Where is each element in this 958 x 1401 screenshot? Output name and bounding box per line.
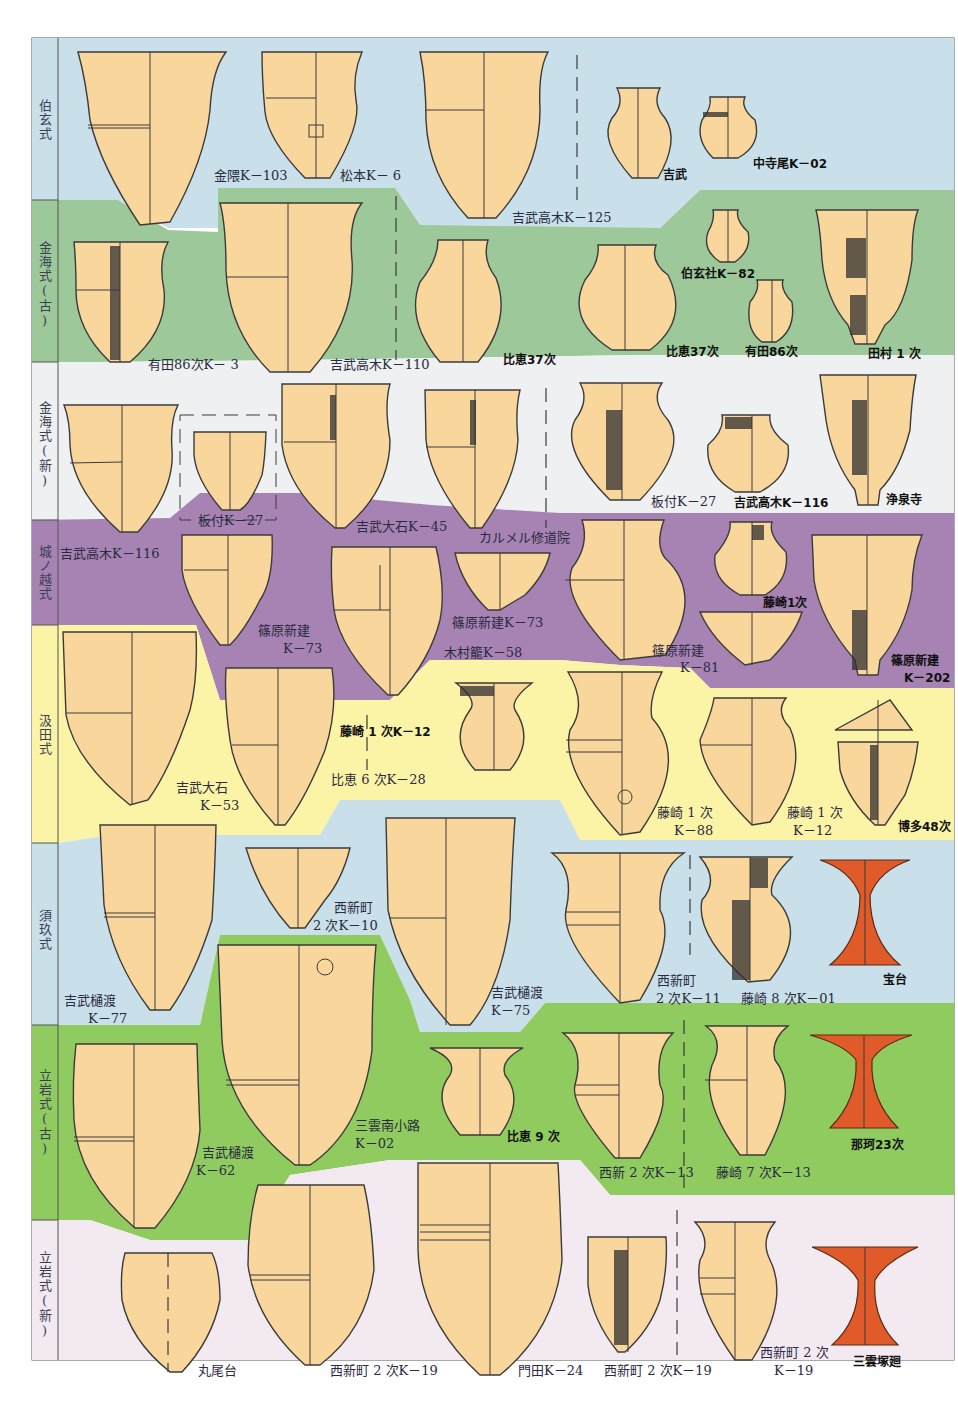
site-label: K－53 [200, 798, 239, 813]
site-label: 木村籠K－58 [444, 645, 522, 660]
site-label: 比恵37次 [666, 345, 719, 360]
phase-label-jonokoshi: 城ノ越式 [33, 535, 55, 610]
site-label: 西新町 2 次K－19 [330, 1363, 438, 1378]
site-label: 西新町 2 次 [760, 1345, 829, 1360]
site-label: 藤崎 1 次 [657, 805, 713, 820]
site-label: K－12 [793, 823, 832, 838]
site-label: 板付K－27 [198, 513, 263, 528]
site-label: K－81 [680, 660, 719, 675]
phase-label-kinkai-old: 金海式(古) [33, 225, 55, 345]
site-label: 比恵 9 次 [507, 1130, 560, 1145]
site-label: 吉武樋渡 [491, 985, 543, 1000]
site-label: 吉武大石K－45 [356, 519, 447, 534]
site-label: 藤崎1次 [763, 596, 807, 611]
site-label: 門田K－24 [518, 1363, 583, 1378]
phase-label-suku: 須玖式 [33, 890, 55, 970]
site-label: K－202 [904, 671, 950, 686]
site-label: 吉武高木K－110 [330, 357, 430, 372]
site-label: 藤崎 7 次K－13 [716, 1165, 811, 1180]
site-label: 篠原新建 [258, 623, 310, 638]
phase-label-kinkai-new: 金海式(新) [33, 395, 55, 495]
site-label: 篠原新建 [652, 643, 704, 658]
site-label: 浄泉寺 [886, 493, 922, 508]
site-label: 有田86次K－ 3 [148, 357, 239, 372]
site-label: 中寺尾K－02 [753, 157, 827, 172]
site-label: 吉武大石 [176, 780, 228, 795]
site-label: 西新町 [334, 900, 373, 915]
site-label: K－73 [283, 641, 322, 656]
site-label: 藤崎 1 次K－12 [340, 725, 431, 740]
site-label: 三雲塚廻 [853, 1355, 901, 1370]
site-label: 2 次K－11 [656, 991, 721, 1006]
site-label: 板付K－27 [651, 494, 716, 509]
site-label: 2 次K－10 [313, 918, 378, 933]
site-label: 西新 2 次K－13 [599, 1165, 694, 1180]
site-label: 篠原新建 [891, 654, 939, 669]
site-label: 丸尾台 [198, 1363, 237, 1378]
site-label: 吉武樋渡 [202, 1145, 254, 1160]
site-label: 西新町 [657, 973, 696, 988]
typology-chart: .pot{fill:#f9d79c;stroke:#3b3b3b;stroke-… [0, 0, 958, 1401]
site-label: 吉武高木K－116 [734, 496, 828, 511]
site-label: 田村 1 次 [868, 347, 921, 362]
site-label: K－77 [88, 1011, 127, 1026]
phase-label-tateiwa-old: 立岩式(古) [33, 1058, 55, 1168]
site-label: 吉武高木K－125 [512, 210, 612, 225]
site-label: K－02 [355, 1136, 394, 1151]
site-label: 吉武高木K－116 [60, 546, 160, 561]
site-label: 宝台 [883, 973, 907, 988]
site-label: 金隈K－103 [214, 168, 288, 183]
site-label: 藤崎 1 次 [787, 805, 843, 820]
site-label: 西新町 2 次K－19 [604, 1363, 712, 1378]
site-label: 比恵 6 次K－28 [331, 772, 426, 787]
site-label: 吉武 [663, 168, 687, 183]
site-label: 藤崎 8 次K－01 [741, 991, 836, 1006]
phase-label-tateiwa-new: 立岩式(新) [33, 1245, 55, 1345]
site-label: 吉武樋渡 [64, 993, 116, 1008]
site-label: 三雲南小路 [355, 1118, 420, 1133]
site-label: 伯玄社K－82 [681, 267, 755, 282]
site-label: K－19 [774, 1363, 813, 1378]
site-label: 有田86次 [745, 345, 798, 360]
site-label: K－88 [674, 823, 713, 838]
site-label: 比恵37次 [503, 353, 556, 368]
site-label: カルメル修道院 [479, 530, 570, 545]
phase-label-kumeda: 汲田式 [33, 705, 55, 765]
site-label: K－75 [491, 1003, 530, 1018]
site-label: 松本K－ 6 [340, 168, 401, 183]
site-label: K－62 [196, 1163, 235, 1178]
site-label: 篠原新建K－73 [452, 615, 543, 630]
phase-label-hakugen: 伯玄式 [33, 85, 55, 155]
site-label: 那珂23次 [851, 1138, 904, 1153]
site-label: 博多48次 [898, 820, 951, 835]
